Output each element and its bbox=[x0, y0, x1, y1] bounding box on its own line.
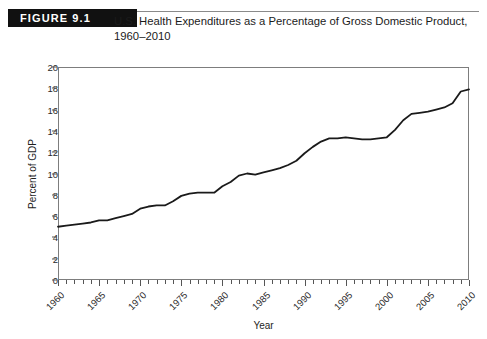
x-tick-label: 1985 bbox=[244, 289, 272, 317]
x-tick-minor bbox=[74, 280, 75, 284]
figure-title-line-2: 1960–2010 bbox=[114, 29, 476, 44]
x-tick-minor bbox=[247, 280, 248, 284]
x-tick-major bbox=[99, 280, 100, 286]
y-tick-label: 0 bbox=[6, 275, 58, 286]
x-tick-major bbox=[222, 280, 223, 286]
x-tick-minor bbox=[116, 280, 117, 284]
x-tick-minor bbox=[329, 280, 330, 284]
x-tick-minor bbox=[379, 280, 380, 284]
y-tick-label: 4 bbox=[6, 232, 58, 243]
y-tick-label: 18 bbox=[6, 83, 58, 94]
x-tick-minor bbox=[403, 280, 404, 284]
x-tick-label: 1970 bbox=[121, 289, 149, 317]
x-tick-minor bbox=[337, 280, 338, 284]
y-tick-mark bbox=[52, 216, 57, 217]
x-axis-title: Year bbox=[58, 320, 469, 331]
x-tick-minor bbox=[453, 280, 454, 284]
x-tick-label: 1960 bbox=[39, 289, 67, 317]
y-tick-mark bbox=[52, 109, 57, 110]
y-tick-mark bbox=[52, 258, 57, 259]
y-tick-label: 6 bbox=[6, 211, 58, 222]
y-tick-label: 8 bbox=[6, 189, 58, 200]
health-expenditure-line bbox=[58, 89, 469, 226]
x-tick-minor bbox=[66, 280, 67, 284]
y-tick-label: 16 bbox=[6, 104, 58, 115]
y-tick-mark bbox=[52, 88, 57, 89]
x-tick-major bbox=[346, 280, 347, 286]
x-tick-minor bbox=[173, 280, 174, 284]
x-tick-major bbox=[58, 280, 59, 286]
figure-title-line-1: U.S. Health Expenditures as a Percentage… bbox=[114, 15, 468, 27]
x-tick-minor bbox=[362, 280, 363, 284]
data-line-series bbox=[58, 67, 469, 280]
x-tick-minor bbox=[231, 280, 232, 284]
x-tick-minor bbox=[107, 280, 108, 284]
x-tick-minor bbox=[272, 280, 273, 284]
y-tick-mark bbox=[52, 280, 57, 281]
y-tick-mark bbox=[52, 130, 57, 131]
y-tick-label: 10 bbox=[6, 168, 58, 179]
x-tick-minor bbox=[148, 280, 149, 284]
x-tick-minor bbox=[83, 280, 84, 284]
figure-container: FIGURE 9.1 U.S. Health Expenditures as a… bbox=[0, 0, 487, 339]
y-tick-label: 12 bbox=[6, 147, 58, 158]
x-tick-major bbox=[181, 280, 182, 286]
y-tick-mark bbox=[52, 152, 57, 153]
x-tick-minor bbox=[436, 280, 437, 284]
x-tick-label: 2010 bbox=[450, 289, 478, 317]
x-tick-major bbox=[387, 280, 388, 286]
x-tick-minor bbox=[313, 280, 314, 284]
x-tick-major bbox=[264, 280, 265, 286]
x-tick-minor bbox=[420, 280, 421, 284]
x-tick-minor bbox=[214, 280, 215, 284]
y-tick-label: 20 bbox=[6, 62, 58, 73]
x-tick-label: 1995 bbox=[326, 289, 354, 317]
x-tick-minor bbox=[190, 280, 191, 284]
y-tick-label: 14 bbox=[6, 125, 58, 136]
y-axis: 02468101214161820 bbox=[0, 67, 58, 280]
x-tick-major bbox=[305, 280, 306, 286]
x-tick-minor bbox=[461, 280, 462, 284]
chart-area: Percent of GDP 02468101214161820 1960196… bbox=[0, 58, 487, 339]
x-tick-minor bbox=[354, 280, 355, 284]
y-tick-mark bbox=[52, 237, 57, 238]
y-tick-mark bbox=[52, 194, 57, 195]
x-tick-major bbox=[140, 280, 141, 286]
x-tick-major bbox=[428, 280, 429, 286]
y-tick-mark bbox=[52, 173, 57, 174]
x-tick-label: 2000 bbox=[368, 289, 396, 317]
x-tick-minor bbox=[411, 280, 412, 284]
figure-title: U.S. Health Expenditures as a Percentage… bbox=[114, 14, 476, 44]
x-tick-major bbox=[469, 280, 470, 286]
x-tick-minor bbox=[91, 280, 92, 284]
x-tick-label: 1975 bbox=[162, 289, 190, 317]
x-tick-minor bbox=[280, 280, 281, 284]
x-tick-minor bbox=[124, 280, 125, 284]
x-tick-minor bbox=[255, 280, 256, 284]
x-tick-minor bbox=[157, 280, 158, 284]
x-tick-minor bbox=[206, 280, 207, 284]
x-tick-label: 1980 bbox=[203, 289, 231, 317]
x-tick-label: 1990 bbox=[285, 289, 313, 317]
x-tick-minor bbox=[239, 280, 240, 284]
x-tick-minor bbox=[395, 280, 396, 284]
x-tick-minor bbox=[198, 280, 199, 284]
x-tick-minor bbox=[132, 280, 133, 284]
y-tick-mark bbox=[52, 67, 57, 68]
x-tick-minor bbox=[370, 280, 371, 284]
x-tick-minor bbox=[165, 280, 166, 284]
x-tick-label: 1965 bbox=[80, 289, 108, 317]
x-tick-minor bbox=[444, 280, 445, 284]
x-tick-minor bbox=[296, 280, 297, 284]
x-tick-minor bbox=[288, 280, 289, 284]
y-tick-label: 2 bbox=[6, 253, 58, 264]
x-tick-label: 2005 bbox=[409, 289, 437, 317]
x-tick-minor bbox=[321, 280, 322, 284]
